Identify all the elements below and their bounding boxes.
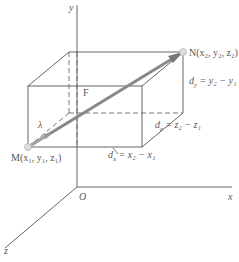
- origin-label: O: [79, 192, 86, 202]
- diagram-svg: [0, 0, 239, 262]
- lambda-label: λ: [38, 120, 42, 130]
- z-axis: [5, 187, 77, 248]
- dz-label: dz = z₂ − z₁: [155, 120, 201, 133]
- point-N-label: N(x₂, y₂, z₂): [189, 48, 238, 58]
- dy-label: dy = y₂ − y₁: [189, 76, 236, 89]
- point-N: [180, 49, 187, 56]
- point-M: [25, 144, 32, 151]
- vector-diagram: y x z O F λ M(x₁, y₁, z₁) N(x₂, y₂, z₂) …: [0, 0, 239, 262]
- point-M-label: M(x₁, y₁, z₁): [11, 153, 61, 163]
- z-axis-label: z: [4, 246, 8, 256]
- force-label: F: [83, 88, 89, 98]
- x-axis-label: x: [228, 192, 232, 202]
- dx-label: dx = x₂ − x₁: [108, 150, 155, 163]
- y-axis-label: y: [69, 3, 73, 13]
